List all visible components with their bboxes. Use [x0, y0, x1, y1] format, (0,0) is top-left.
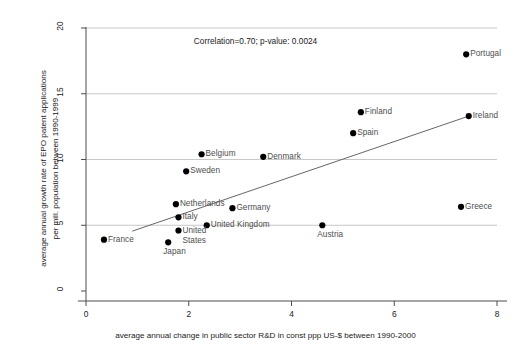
data-point[interactable] [466, 113, 472, 119]
data-point[interactable] [458, 204, 464, 210]
data-point[interactable] [173, 201, 179, 207]
point-label: Italy [182, 212, 197, 221]
data-point[interactable] [260, 154, 266, 160]
data-point[interactable] [358, 109, 364, 115]
point-label: France [108, 235, 134, 244]
point-label: United Kingdom [211, 220, 270, 229]
point-label: Netherlands [180, 199, 225, 208]
point-label: Portugal [470, 49, 501, 58]
point-label: Finland [365, 107, 392, 116]
point-label: Spain [357, 128, 378, 137]
data-point[interactable] [229, 205, 235, 211]
point-label: Austria [317, 230, 343, 239]
point-label: Greece [465, 202, 492, 211]
point-label: United States [182, 226, 206, 247]
point-label: Germany [236, 203, 270, 212]
data-point[interactable] [198, 151, 204, 157]
plot-area [0, 0, 513, 355]
data-point[interactable] [165, 239, 171, 245]
data-point[interactable] [319, 222, 325, 228]
point-label: Belgium [206, 149, 236, 158]
point-label: Japan [163, 247, 186, 256]
data-point[interactable] [175, 214, 181, 220]
point-label: Denmark [267, 152, 301, 161]
data-point[interactable] [175, 227, 181, 233]
scatter-chart-figure: average annual growth rate of EPO patent… [0, 0, 513, 355]
data-point[interactable] [463, 51, 469, 57]
point-label: Ireland [473, 111, 498, 120]
data-point[interactable] [350, 130, 356, 136]
data-point[interactable] [101, 237, 107, 243]
correlation-annotation: Correlation=0.70; p-value: 0.0024 [194, 36, 317, 46]
data-point[interactable] [183, 168, 189, 174]
point-label: Sweden [190, 166, 220, 175]
